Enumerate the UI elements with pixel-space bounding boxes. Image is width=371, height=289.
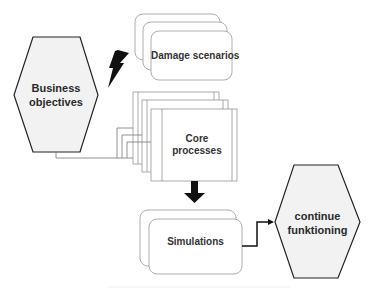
core-processes-line2: processes xyxy=(162,145,232,157)
continue-functioning-line2: funktioning xyxy=(275,223,360,237)
continue-functioning-label: continue funktioning xyxy=(275,209,360,237)
damage-scenarios-label: Damage scenarios xyxy=(151,50,232,62)
business-objectives-line2: objectives xyxy=(14,95,98,109)
core-processes-line1: Core xyxy=(162,133,232,145)
block-arrow-down-icon xyxy=(184,181,205,203)
continue-functioning-line1: continue xyxy=(275,209,360,223)
lightning-bolt-icon xyxy=(108,50,129,88)
business-objectives-label: Business objectives xyxy=(14,81,98,109)
business-objectives-line1: Business xyxy=(14,81,98,95)
damage-scenarios-stack xyxy=(135,14,232,80)
simulations-label: Simulations xyxy=(149,236,242,248)
core-processes-label: Core processes xyxy=(162,133,232,157)
simulations-to-continue-arrow xyxy=(242,219,274,246)
